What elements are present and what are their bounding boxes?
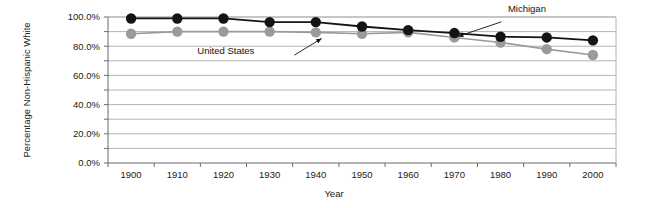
line-chart: 0.0%20.0%40.0%60.0%80.0%100.0% 190019101… [0,0,647,208]
y-axis-tick-label: 60.0% [73,70,100,81]
data-point-marker [403,25,413,35]
y-axis-tick-label: 80.0% [73,41,100,52]
data-point-marker [449,28,459,38]
data-point-marker [542,32,552,42]
data-point-marker [172,26,182,36]
chart-figure: 0.0%20.0%40.0%60.0%80.0%100.0% 190019101… [0,0,647,208]
x-axis-tick-label: 2000 [582,169,603,180]
data-point-marker [126,29,136,39]
y-axis-tick-label: 40.0% [73,99,100,110]
data-point-marker [495,32,505,42]
x-axis-tick-label: 1900 [121,169,142,180]
x-axis-title: Year [324,188,343,199]
x-axis-tick-label: 1930 [259,169,280,180]
data-point-marker [264,17,274,27]
x-axis-tick-label: 1910 [167,169,188,180]
data-point-marker [311,17,321,27]
annotation-label: Michigan [508,3,546,14]
data-point-marker [588,35,598,45]
annotation-label: United States [197,45,254,56]
y-axis-title: Percentage Non-Hispanic White [21,22,32,157]
y-axis-tick-label: 100.0% [68,11,101,22]
x-axis-tick-label: 1990 [536,169,557,180]
data-point-marker [264,26,274,36]
data-point-marker [588,50,598,60]
data-point-marker [357,21,367,31]
x-axis-tick-label: 1940 [305,169,326,180]
y-axis-tick-label: 0.0% [78,157,100,168]
data-point-marker [542,44,552,54]
x-axis-tick-label: 1970 [444,169,465,180]
data-point-marker [218,26,228,36]
data-point-marker [172,13,182,23]
x-axis-tick-label: 1950 [351,169,372,180]
x-axis-tick-label: 1920 [213,169,234,180]
data-point-marker [218,13,228,23]
x-axis-tick-label: 1980 [490,169,511,180]
data-point-marker [311,27,321,37]
data-point-marker [126,13,136,23]
y-axis-tick-label: 20.0% [73,128,100,139]
x-axis-tick-label: 1960 [398,169,419,180]
